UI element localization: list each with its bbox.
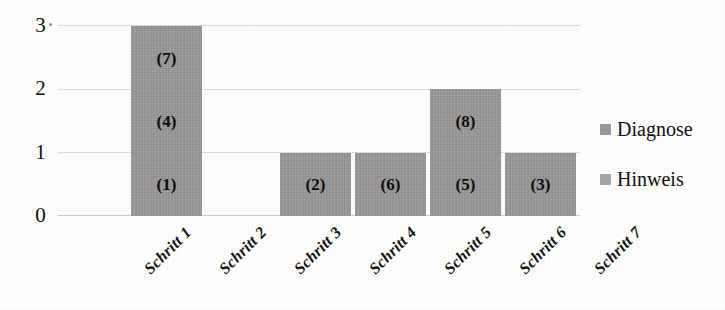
bar-schritt-4[interactable]: (2) <box>280 153 351 216</box>
bar-segment-label: (5) <box>430 176 501 193</box>
x-tick-schritt-5: Schritt 5 <box>424 224 483 240</box>
bar-segment-label: (1) <box>131 176 202 193</box>
x-tick-schritt-6: Schritt 6 <box>499 224 558 240</box>
y-tick-label-3: 3 <box>35 15 46 36</box>
x-tick-label: Schritt 3 <box>291 224 344 277</box>
y-axis: 3 2 1 0 <box>0 0 58 216</box>
x-tick-schritt-3: Schritt 3 <box>274 224 333 240</box>
bar-segment-label: (2) <box>280 175 351 192</box>
square-marker-icon <box>600 124 611 135</box>
legend-item-hinweis[interactable]: Hinweis <box>600 154 720 204</box>
x-tick-schritt-1: Schritt 1 <box>124 224 183 240</box>
bar-schritt-7[interactable]: (3) <box>505 153 576 216</box>
bar-segment-label: (7) <box>131 50 202 67</box>
x-axis: Schritt 1 Schritt 2 Schritt 3 Schritt 4 … <box>58 216 580 310</box>
axis-speck-mark <box>49 23 52 26</box>
square-marker-icon <box>600 174 611 185</box>
bar-segment-label: (3) <box>505 175 576 192</box>
bar-schritt-6[interactable]: (5) (8) <box>430 89 501 216</box>
x-tick-label: Schritt 6 <box>516 224 569 277</box>
x-tick-schritt-7: Schritt 7 <box>574 224 633 240</box>
bar-schritt-2[interactable]: (1) (4) (7) <box>131 26 202 216</box>
bar-segment-label: (4) <box>131 113 202 130</box>
x-tick-label: Schritt 7 <box>591 224 644 277</box>
x-tick-label: Schritt 5 <box>441 224 494 277</box>
x-tick-schritt-4: Schritt 4 <box>349 224 408 240</box>
y-tick-label-0: 0 <box>35 205 46 226</box>
legend-label: Diagnose <box>617 119 693 139</box>
plot-area: (1) (4) (7) (2) (6) (5) (8) (3) <box>58 25 580 216</box>
legend-item-diagnose[interactable]: Diagnose <box>600 104 720 154</box>
bar-schritt-5[interactable]: (6) <box>355 153 426 216</box>
x-tick-label: Schritt 2 <box>216 224 269 277</box>
y-tick-label-2: 2 <box>35 78 46 99</box>
x-tick-schritt-2: Schritt 2 <box>199 224 258 240</box>
bar-segment-label: (6) <box>355 175 426 192</box>
chart-legend: Diagnose Hinweis <box>600 104 720 204</box>
bar-chart-figure: 3 2 1 0 (1) (4) (7) (2) (6) (5) <box>0 0 725 310</box>
x-tick-label: Schritt 4 <box>366 224 419 277</box>
legend-label: Hinweis <box>617 169 684 189</box>
x-tick-label: Schritt 1 <box>141 224 194 277</box>
y-tick-label-1: 1 <box>35 142 46 163</box>
bar-segment-label: (8) <box>430 113 501 130</box>
